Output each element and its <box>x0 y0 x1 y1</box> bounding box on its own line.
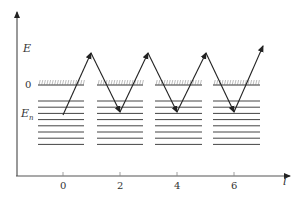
y-axis-label-E: E <box>23 43 31 54</box>
trajectory-segment <box>63 53 91 115</box>
trajectory-segment <box>120 53 148 112</box>
x-tick-label: 4 <box>174 181 180 191</box>
x-tick-label: 2 <box>117 181 123 191</box>
surface-segments <box>38 80 260 85</box>
x-axis-label-l: l <box>283 176 287 187</box>
energy-level-diagram <box>0 0 297 199</box>
trajectory-segment <box>148 53 177 112</box>
zero-level-label: 0 <box>25 80 31 90</box>
trajectory-segment <box>234 46 263 112</box>
trajectory-path <box>63 46 263 115</box>
trajectory-segment <box>91 53 120 112</box>
level-label-subscript: n <box>29 114 34 122</box>
energy-levels <box>38 101 260 144</box>
axes <box>16 12 290 176</box>
level-label-main: E <box>21 107 29 120</box>
trajectory-segment <box>206 53 234 112</box>
x-tick-label: 0 <box>60 181 66 191</box>
trajectory-segment <box>177 53 206 112</box>
surface-segment <box>97 80 143 85</box>
x-tick-label: 6 <box>231 181 237 191</box>
level-label-En: En <box>21 108 34 122</box>
